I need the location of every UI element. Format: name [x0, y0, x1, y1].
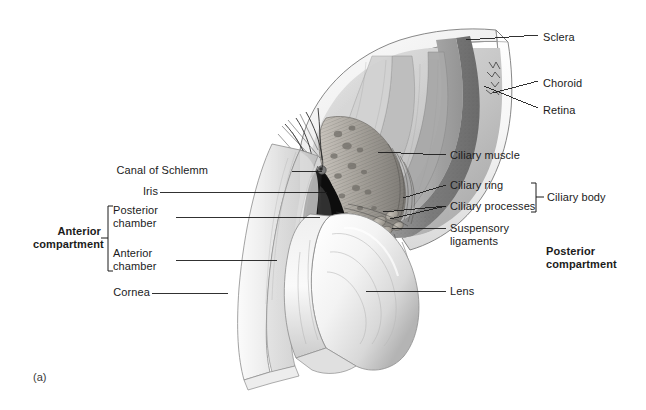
label-anterior-compartment-line2: compartment	[33, 238, 101, 251]
label-posterior-compartment: Posterior compartment	[546, 245, 617, 271]
label-suspensory-ligaments: Suspensory ligaments	[450, 222, 509, 248]
label-posterior-chamber-line2: chamber	[113, 217, 158, 230]
label-suspensory-ligaments-line2: ligaments	[450, 235, 509, 248]
label-lens: Lens	[450, 285, 474, 298]
eye-sagittal-section-illustration	[0, 0, 646, 410]
eye-anatomy-figure: Sclera Choroid Retina Ciliary muscle Cil…	[0, 0, 646, 410]
label-sclera: Sclera	[543, 31, 575, 44]
label-posterior-chamber-line1: Posterior	[113, 204, 158, 217]
label-anterior-compartment: Anterior compartment	[33, 225, 101, 251]
label-posterior-chamber: Posterior chamber	[113, 204, 158, 230]
label-ciliary-muscle: Ciliary muscle	[450, 149, 520, 162]
label-retina: Retina	[543, 104, 575, 117]
label-anterior-chamber-line1: Anterior	[113, 247, 157, 260]
label-choroid: Choroid	[543, 77, 582, 90]
label-cornea: Cornea	[108, 286, 150, 299]
label-ciliary-body: Ciliary body	[547, 191, 606, 204]
label-canal-of-schlemm: Canal of Schlemm	[108, 164, 208, 177]
label-posterior-compartment-line2: compartment	[546, 258, 617, 271]
label-anterior-chamber: Anterior chamber	[113, 247, 157, 273]
figure-panel-label: (a)	[33, 371, 46, 383]
label-ciliary-ring: Ciliary ring	[450, 179, 503, 192]
label-ciliary-processes: Ciliary processes	[450, 200, 535, 213]
label-anterior-chamber-line2: chamber	[113, 260, 157, 273]
label-suspensory-ligaments-line1: Suspensory	[450, 222, 509, 235]
label-posterior-compartment-line1: Posterior	[546, 245, 617, 258]
label-iris: Iris	[113, 185, 158, 198]
label-anterior-compartment-line1: Anterior	[33, 225, 101, 238]
